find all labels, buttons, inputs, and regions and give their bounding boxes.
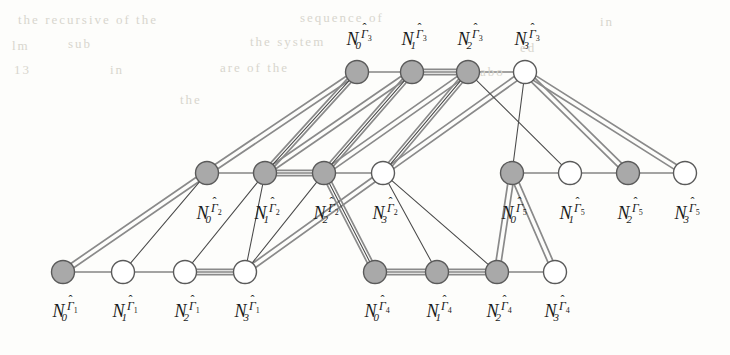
graph-node[interactable] xyxy=(234,261,257,284)
node-label: N3Γˆ2 xyxy=(373,202,398,225)
node-label: N0Γˆ2 xyxy=(197,202,222,225)
ghost-text: the system xyxy=(250,34,325,50)
ghost-text: sequence of xyxy=(300,10,384,26)
graph-node[interactable] xyxy=(674,162,697,185)
graph-node[interactable] xyxy=(426,261,449,284)
graph-node[interactable] xyxy=(52,261,75,284)
node-group-graph-figure: N0Γˆ1N1Γˆ1N2Γˆ1N3Γˆ1N0Γˆ2N1Γˆ2N2Γˆ2N3Γˆ2… xyxy=(0,0,730,355)
thick-edge xyxy=(214,75,350,169)
graph-node[interactable] xyxy=(254,162,277,185)
graph-node[interactable] xyxy=(313,162,336,185)
graph-node[interactable] xyxy=(174,261,197,284)
ghost-text: in xyxy=(600,14,614,30)
graph-node[interactable] xyxy=(559,162,582,185)
node-label: N0Γˆ4 xyxy=(365,300,390,323)
ghost-text: the xyxy=(180,92,202,108)
thick-edge xyxy=(532,75,678,170)
ghost-text: in xyxy=(110,62,124,78)
ghost-text: abo xyxy=(480,64,505,80)
graph-node[interactable] xyxy=(364,261,387,284)
node-label: N1Γˆ5 xyxy=(560,202,585,225)
node-label: N2Γˆ3 xyxy=(458,28,483,51)
graph-node[interactable] xyxy=(486,261,509,284)
ghost-text: sub xyxy=(68,36,92,52)
node-label: N1Γˆ2 xyxy=(255,202,280,225)
graph-node[interactable] xyxy=(112,261,135,284)
graph-node[interactable] xyxy=(617,162,640,185)
ghost-text: ed xyxy=(520,40,536,56)
graph-node[interactable] xyxy=(196,162,219,185)
node-label: N3Γˆ1 xyxy=(235,300,260,323)
graph-node[interactable] xyxy=(372,162,395,185)
node-label: N2Γˆ4 xyxy=(487,300,512,323)
graph-node[interactable] xyxy=(544,261,567,284)
thin-edge xyxy=(391,180,488,265)
node-label: N2Γˆ2 xyxy=(314,202,339,225)
node-label: N0Γˆ5 xyxy=(502,202,527,225)
node-label: N1Γˆ1 xyxy=(113,300,138,323)
graph-node[interactable] xyxy=(457,61,480,84)
node-label: N1Γˆ4 xyxy=(427,300,452,323)
ghost-text: lm xyxy=(12,38,30,54)
ghost-text: are of the xyxy=(220,60,289,76)
graph-node[interactable] xyxy=(346,61,369,84)
node-label: N2Γˆ1 xyxy=(175,300,200,323)
thick-edge xyxy=(390,76,519,170)
node-label: N0Γˆ1 xyxy=(53,300,78,323)
thick-edge xyxy=(70,177,200,269)
node-label: N0Γˆ3 xyxy=(347,28,372,51)
graph-node[interactable] xyxy=(401,61,424,84)
node-label: N2Γˆ5 xyxy=(618,202,643,225)
node-label: N1Γˆ3 xyxy=(402,28,427,51)
graph-node[interactable] xyxy=(501,162,524,185)
graph-node[interactable] xyxy=(514,61,537,84)
ghost-text: the recursive of the xyxy=(18,12,158,28)
ghost-text: 13 xyxy=(14,62,31,78)
node-label: N3Γˆ5 xyxy=(675,202,700,225)
node-label: N3Γˆ4 xyxy=(545,300,570,323)
